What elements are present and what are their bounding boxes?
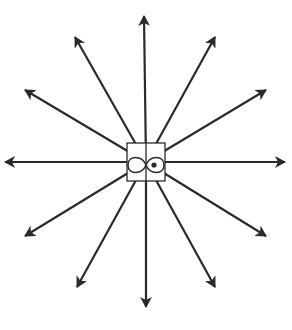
- radiating-arrows-diagram: [0, 0, 292, 330]
- dot-icon: [151, 162, 156, 167]
- center-box: [127, 143, 165, 181]
- arrow-up-icon: [144, 16, 146, 162]
